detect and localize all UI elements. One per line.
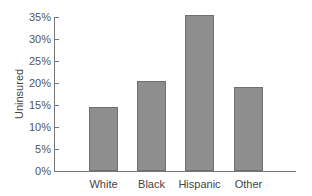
y-tick — [54, 105, 59, 106]
y-tick — [54, 127, 59, 128]
bar-chart: Uninsured 0%5%10%15%20%25%30%35% WhiteBl… — [0, 0, 312, 196]
bar-white — [89, 107, 118, 171]
y-tick-label: 25% — [11, 55, 51, 67]
x-axis — [54, 171, 296, 172]
y-tick — [54, 39, 59, 40]
y-tick-label: 15% — [11, 99, 51, 111]
y-tick-label: 0% — [11, 165, 51, 177]
y-tick — [54, 171, 59, 172]
y-tick-label: 20% — [11, 77, 51, 89]
y-tick-label: 10% — [11, 121, 51, 133]
bar-black — [137, 81, 166, 171]
y-tick — [54, 61, 59, 62]
y-tick-label: 35% — [11, 11, 51, 23]
bar-hispanic — [185, 15, 214, 171]
x-tick-label: Other — [219, 178, 279, 190]
y-tick — [54, 83, 59, 84]
y-tick-label: 30% — [11, 33, 51, 45]
y-tick — [54, 149, 59, 150]
bar-other — [234, 87, 263, 171]
y-tick — [54, 17, 59, 18]
y-tick-label: 5% — [11, 143, 51, 155]
